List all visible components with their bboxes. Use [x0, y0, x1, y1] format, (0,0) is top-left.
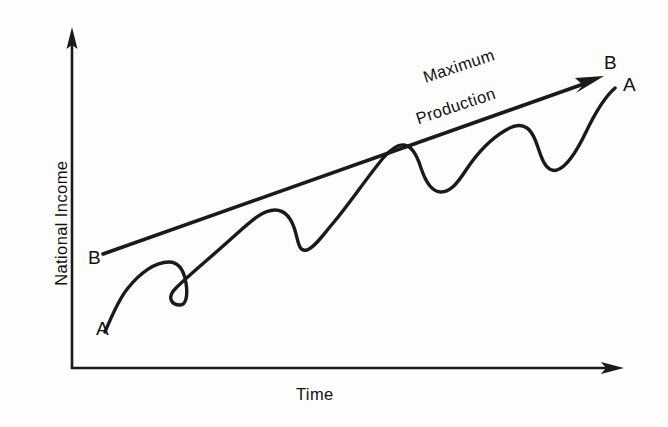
- income-curve-start-label-a: A: [96, 318, 109, 339]
- trend-line-start-label-b: B: [88, 247, 101, 268]
- maximum-production-line2: Production: [414, 81, 509, 128]
- business-cycle-chart: National Income Time Maximum Production …: [0, 0, 668, 427]
- chart-canvas: [0, 0, 668, 427]
- x-axis-label: Time: [296, 385, 334, 403]
- income-curve-end-label-a: A: [623, 74, 636, 95]
- maximum-production-trend-line: [103, 81, 592, 254]
- trend-line-end-label-b: B: [604, 52, 617, 73]
- maximum-production-line1: Maximum: [421, 46, 497, 87]
- y-axis-label: National Income: [52, 133, 70, 313]
- actual-national-income-curve: [105, 88, 615, 332]
